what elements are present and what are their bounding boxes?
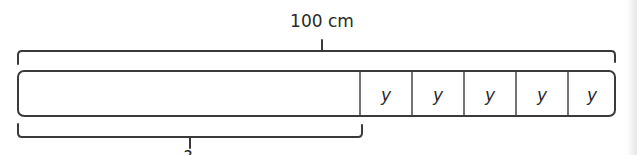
- unknown-part-label: ?: [183, 147, 192, 155]
- bottom-brace: [18, 124, 362, 148]
- total-length-label: 100 cm: [290, 11, 354, 31]
- segment-label-y1: y: [380, 85, 392, 105]
- bar: y y y y y: [18, 71, 615, 116]
- page-edge-shadow: [627, 0, 637, 155]
- segment-label-y4: y: [536, 85, 548, 105]
- bar-outline: [18, 71, 615, 116]
- segment-label-y2: y: [432, 85, 444, 105]
- top-brace: [18, 40, 615, 64]
- segment-label-y3: y: [484, 85, 496, 105]
- segment-label-y5: y: [586, 85, 598, 105]
- bar-model-diagram: 100 cm y y y y y ?: [0, 0, 637, 155]
